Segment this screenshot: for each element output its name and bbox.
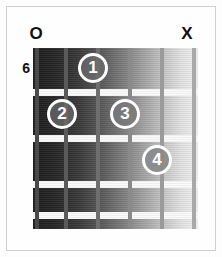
finger-dot-4: 4 xyxy=(142,145,172,175)
finger-dot-2: 2 xyxy=(47,99,77,129)
fretboard xyxy=(33,48,198,229)
string-1 xyxy=(35,48,39,229)
string-2 xyxy=(64,48,68,229)
muted-string-marker: X xyxy=(178,25,196,42)
finger-dot-3: 3 xyxy=(110,99,140,129)
fret-line xyxy=(33,135,198,142)
finger-dot-1: 1 xyxy=(78,53,108,83)
fret-line xyxy=(33,89,198,96)
starting-fret-number: 6 xyxy=(10,61,30,75)
string-6 xyxy=(192,48,196,229)
fret-line xyxy=(33,181,198,188)
string-4 xyxy=(128,48,132,229)
open-string-marker: O xyxy=(27,25,45,42)
fret-line xyxy=(33,212,198,219)
string-5 xyxy=(160,48,164,229)
chord-diagram: O X 6 1 2 3 4 xyxy=(0,0,222,257)
